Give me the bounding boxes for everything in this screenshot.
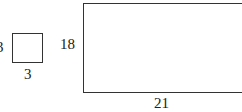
large-rectangle-bottom-label: 21 xyxy=(154,96,169,111)
large-rectangle-side-label: 18 xyxy=(60,37,75,52)
small-square xyxy=(12,33,43,63)
small-square-bottom-label: 3 xyxy=(24,67,32,82)
large-rectangle xyxy=(83,3,242,93)
small-square-side-label: 3 xyxy=(0,40,4,55)
